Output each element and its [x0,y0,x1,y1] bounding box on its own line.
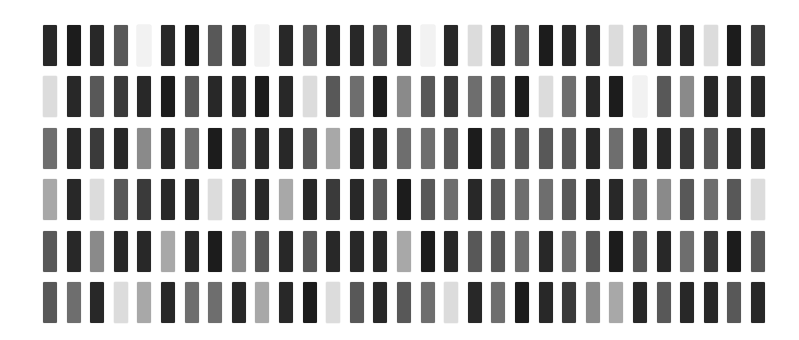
grey-swatch [468,231,482,272]
grey-swatch [609,25,623,66]
grey-swatch [586,76,600,117]
grey-swatch [491,128,505,169]
grey-swatch [43,128,57,169]
grey-swatch [491,76,505,117]
grey-swatch [657,282,671,323]
grey-swatch [208,179,222,220]
grey-swatch [397,231,411,272]
grey-swatch [67,76,81,117]
grey-swatch [586,128,600,169]
grey-swatch [137,128,151,169]
grey-swatch [609,76,623,117]
grey-swatch [633,76,647,117]
grey-swatch [43,231,57,272]
grey-swatch [279,179,293,220]
grey-swatch [727,128,741,169]
grey-swatch [444,76,458,117]
grey-swatch [397,282,411,323]
grey-swatch [326,25,340,66]
grey-swatch [704,76,718,117]
grey-swatch [90,25,104,66]
grey-swatch [303,231,317,272]
grey-swatch [562,282,576,323]
grey-swatch [444,231,458,272]
grey-swatch [609,282,623,323]
grey-swatch [421,25,435,66]
grey-swatch [633,25,647,66]
grey-swatch [468,128,482,169]
grey-swatch [185,231,199,272]
grey-swatch [444,282,458,323]
grey-swatch [680,76,694,117]
grey-swatch [350,282,364,323]
grey-swatch [326,231,340,272]
grey-swatch [255,231,269,272]
grey-swatch [90,231,104,272]
grey-swatch [727,231,741,272]
grey-swatch [114,179,128,220]
grey-swatch [255,128,269,169]
grey-swatch [539,76,553,117]
grey-swatch [586,179,600,220]
grey-swatch [185,179,199,220]
grey-swatch [137,282,151,323]
grey-swatch [255,25,269,66]
grey-swatch [586,282,600,323]
grey-swatch [255,282,269,323]
grey-swatch [421,179,435,220]
grey-swatch [539,231,553,272]
grey-swatch [704,282,718,323]
grey-swatch [468,282,482,323]
grey-swatch [208,76,222,117]
grey-swatch [586,231,600,272]
grey-swatch [515,282,529,323]
grey-swatch [657,25,671,66]
grey-swatch [609,179,623,220]
grey-swatch [704,231,718,272]
grey-swatch [137,76,151,117]
grey-swatch [680,128,694,169]
grey-swatch [90,179,104,220]
grey-swatch [633,282,647,323]
grey-swatch [515,231,529,272]
grey-swatch [303,179,317,220]
grey-swatch [539,282,553,323]
grey-swatch [421,76,435,117]
grey-swatch [397,128,411,169]
grey-swatch [727,179,741,220]
grey-swatch [657,76,671,117]
grey-swatch [680,231,694,272]
grey-swatch [704,25,718,66]
grey-swatch [373,128,387,169]
grey-swatch [444,128,458,169]
grey-swatch [279,282,293,323]
grey-swatch [303,128,317,169]
grey-swatch [727,76,741,117]
grey-swatch [137,25,151,66]
grey-swatch [421,128,435,169]
grey-swatch [350,25,364,66]
grey-swatch [562,231,576,272]
grey-swatch [515,25,529,66]
grey-swatch [114,76,128,117]
grey-swatch [279,231,293,272]
grey-swatch [114,282,128,323]
grey-swatch [444,25,458,66]
grey-swatch [751,128,765,169]
grey-swatch [751,282,765,323]
grey-swatch [161,25,175,66]
grey-swatch [633,231,647,272]
grey-swatch [727,25,741,66]
grey-swatch [586,25,600,66]
grey-swatch [373,25,387,66]
grey-swatch [421,231,435,272]
grey-swatch [444,179,458,220]
grey-swatch [657,179,671,220]
grey-swatch [67,128,81,169]
grey-swatch [491,25,505,66]
grey-swatch [539,179,553,220]
grey-swatch [43,25,57,66]
swatch-grid [0,0,799,340]
grey-swatch [609,231,623,272]
grey-swatch [114,25,128,66]
